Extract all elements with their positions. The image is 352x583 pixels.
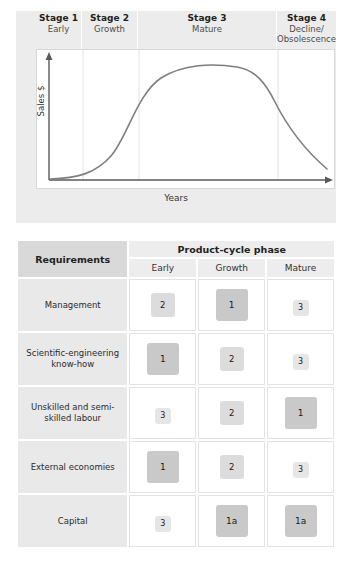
table-row: Unskilled and semi-skilled labour 3 2 1 [18, 387, 334, 439]
rank-badge: 1a [216, 505, 248, 537]
rank-cell-mature: 3 [267, 279, 334, 331]
stage-subtitle: Growth [82, 24, 137, 34]
rank-cell-early: 1 [129, 441, 196, 493]
rank-badge: 2 [220, 401, 244, 425]
sales-curve-svg [37, 50, 336, 190]
rank-badge: 1a [285, 505, 317, 537]
requirement-label: Scientific-engineering know-how [18, 333, 127, 385]
rank-cell-growth: 2 [198, 441, 265, 493]
stage-title: Stage 4 [277, 13, 336, 24]
header-phase-early: Early [129, 259, 196, 277]
stage-subtitle: Mature [138, 24, 276, 34]
rank-badge: 1 [285, 397, 317, 429]
rank-badge: 3 [155, 516, 171, 532]
y-axis-arrowhead [46, 52, 53, 60]
rank-badge: 1 [147, 343, 179, 375]
stage-cell-4: Stage 4 Decline/ Obsolescence [277, 11, 336, 49]
rank-cell-mature: 3 [267, 333, 334, 385]
rank-badge: 3 [293, 300, 309, 316]
stage-cell-1: Stage 1 Early [36, 11, 82, 49]
rank-badge: 3 [293, 354, 309, 370]
x-axis-arrowhead [325, 177, 333, 184]
stage-subtitle: Early [36, 24, 81, 34]
rank-badge: 2 [220, 455, 244, 479]
rank-cell-early: 3 [129, 495, 196, 547]
requirements-matrix-panel: Requirements Product-cycle phase Early G… [16, 239, 336, 573]
stage-title: Stage 2 [82, 13, 137, 24]
rank-cell-growth: 1a [198, 495, 265, 547]
table-row: External economies 1 2 3 [18, 441, 334, 493]
rank-badge: 2 [220, 347, 244, 371]
product-life-cycle-figure: Stage 1 Early Stage 2 Growth Stage 3 Mat… [0, 0, 352, 583]
header-product-cycle-phase: Product-cycle phase [129, 241, 334, 257]
rank-cell-early: 3 [129, 387, 196, 439]
rank-badge: 1 [147, 451, 179, 483]
sales-curve-path [50, 65, 327, 179]
rank-badge: 3 [293, 462, 309, 478]
stage-cell-3: Stage 3 Mature [138, 11, 277, 49]
header-phase-growth: Growth [198, 259, 265, 277]
chart-panel: Stage 1 Early Stage 2 Growth Stage 3 Mat… [16, 11, 336, 223]
rank-badge: 1 [216, 289, 248, 321]
rank-cell-growth: 1 [198, 279, 265, 331]
matrix-header-group-row: Requirements Product-cycle phase [18, 241, 334, 257]
rank-cell-growth: 2 [198, 333, 265, 385]
rank-cell-growth: 2 [198, 387, 265, 439]
requirement-label: Unskilled and semi-skilled labour [18, 387, 127, 439]
requirement-label: Management [18, 279, 127, 331]
requirements-matrix: Requirements Product-cycle phase Early G… [16, 239, 336, 549]
table-row: Management 2 1 3 [18, 279, 334, 331]
rank-badge: 3 [155, 408, 171, 424]
rank-cell-mature: 1 [267, 387, 334, 439]
stage-title: Stage 1 [36, 13, 81, 24]
stage-cell-2: Stage 2 Growth [82, 11, 138, 49]
header-requirements: Requirements [18, 241, 127, 277]
y-axis-label: Sales $ [36, 71, 46, 131]
requirement-label: External economies [18, 441, 127, 493]
rank-badge: 2 [151, 293, 175, 317]
requirement-label: Capital [18, 495, 127, 547]
chart-plot-area: Sales $ [36, 49, 335, 189]
rank-cell-mature: 3 [267, 441, 334, 493]
x-axis-label: Years [16, 193, 336, 203]
stage-header-row: Stage 1 Early Stage 2 Growth Stage 3 Mat… [16, 11, 336, 49]
rank-cell-early: 1 [129, 333, 196, 385]
table-row: Capital 3 1a 1a [18, 495, 334, 547]
stage-subtitle: Decline/ Obsolescence [277, 24, 336, 44]
rank-cell-mature: 1a [267, 495, 334, 547]
header-phase-mature: Mature [267, 259, 334, 277]
stage-title: Stage 3 [138, 13, 276, 24]
table-row: Scientific-engineering know-how 1 2 3 [18, 333, 334, 385]
rank-cell-early: 2 [129, 279, 196, 331]
